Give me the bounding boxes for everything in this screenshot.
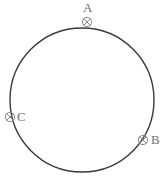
point-marker-c <box>5 112 14 121</box>
main-circle <box>10 28 154 172</box>
point-marker-a <box>82 17 91 26</box>
point-marker-b <box>138 135 147 144</box>
diagram-canvas: A B C <box>0 0 168 189</box>
point-label-c: C <box>17 110 26 123</box>
geometry-drawing <box>0 0 168 189</box>
point-label-a: A <box>83 1 92 14</box>
point-label-b: B <box>151 133 160 146</box>
